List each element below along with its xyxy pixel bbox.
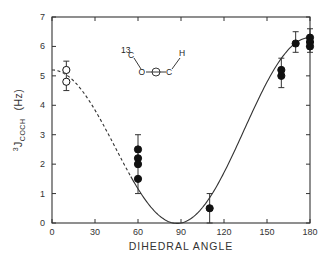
molecule-diagram: 13 C O C H (121, 45, 185, 77)
x-tick-label: 60 (133, 227, 143, 237)
y-tick-label: 0 (40, 218, 45, 228)
filled-circle-point (134, 161, 141, 168)
y-title-subscript: COCH (19, 119, 26, 142)
x-tick-label: 0 (49, 227, 54, 237)
error-bars (63, 29, 313, 223)
filled-circle-point (134, 175, 141, 182)
atom-carbon: C (166, 67, 172, 77)
karplus-chart: 0306090120150180 01234567 DIHEDRAL ANGLE… (0, 0, 329, 262)
y-axis-title: 3JCOCH(Hz) (12, 89, 26, 152)
atom-c13: C (128, 50, 134, 60)
y-tick-label: 2 (40, 159, 45, 169)
filled-circle-point (134, 146, 141, 153)
atom-oxygen: O (139, 67, 146, 77)
filled-circle-point (306, 43, 313, 50)
y-tick-label: 4 (40, 100, 45, 110)
y-tick-label: 3 (40, 130, 45, 140)
karplus-curve (52, 38, 310, 224)
curve-dashed-segment (52, 70, 131, 177)
svg-text:3JCOCH(Hz): 3JCOCH(Hz) (12, 89, 26, 152)
filled-circle-point (206, 205, 213, 212)
y-title-unit: (Hz) (12, 89, 24, 111)
data-points (63, 34, 314, 212)
y-tick-label: 7 (40, 12, 45, 22)
filled-circle-point (278, 72, 285, 79)
open-circle-point (63, 66, 70, 73)
x-axis-title: DIHEDRAL ANGLE (129, 240, 234, 252)
atom-hydrogen: H (179, 48, 185, 58)
curve-solid-segment (131, 38, 310, 224)
open-circle-point (63, 78, 70, 85)
y-tick-label: 5 (40, 71, 45, 81)
y-tick-label: 6 (40, 41, 45, 51)
y-tick-label: 1 (40, 189, 45, 199)
y-axis-ticks: 01234567 (40, 12, 310, 228)
x-tick-label: 30 (90, 227, 100, 237)
x-tick-label: 150 (259, 227, 274, 237)
x-tick-label: 120 (216, 227, 231, 237)
filled-circle-point (292, 40, 299, 47)
x-tick-label: 90 (176, 227, 186, 237)
x-tick-label: 180 (302, 227, 317, 237)
